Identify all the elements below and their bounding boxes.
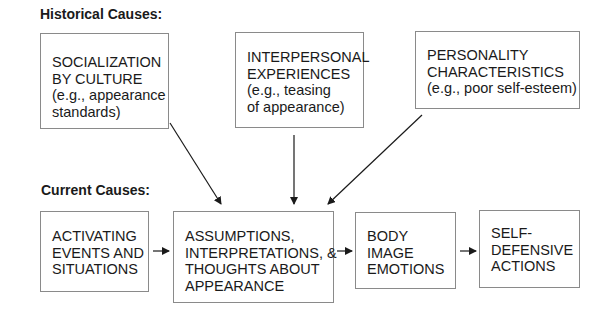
arrow-socialization-to-assumptions bbox=[170, 123, 221, 204]
arrows-layer bbox=[0, 0, 613, 319]
arrow-personality-to-assumptions bbox=[328, 115, 422, 204]
